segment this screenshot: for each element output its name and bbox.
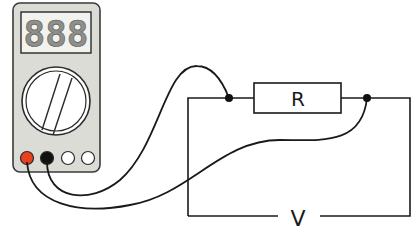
selector-dial-inner: [26, 71, 86, 131]
node-right: [363, 94, 371, 102]
node-left: [225, 94, 233, 102]
source-label: V: [290, 206, 305, 231]
terminal-white-1[interactable]: [62, 152, 75, 165]
multimeter: 888: [13, 3, 100, 172]
resistor-label: R: [291, 87, 305, 111]
display-digits: 888: [23, 13, 88, 54]
circuit-diagram: 888 R V: [0, 0, 413, 232]
wire-right: [320, 98, 410, 216]
wire-left: [188, 98, 254, 216]
terminal-white-2[interactable]: [82, 152, 95, 165]
